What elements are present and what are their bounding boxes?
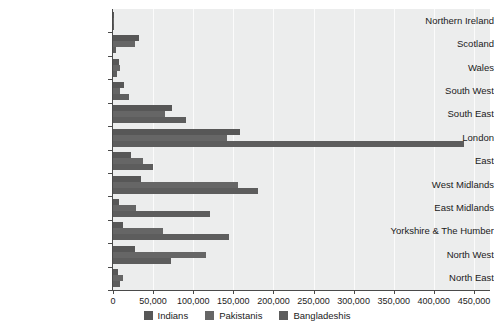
- bar-group: [113, 129, 490, 147]
- bar: [113, 71, 117, 77]
- bar: [113, 24, 114, 30]
- bar-group: [113, 59, 490, 77]
- x-axis-tick-mark: [273, 290, 274, 294]
- bar-group: [113, 82, 490, 100]
- bar: [113, 258, 171, 264]
- y-axis-tick-mark: [108, 196, 112, 197]
- legend-label: Indians: [158, 310, 189, 321]
- legend-swatch-icon: [279, 311, 288, 320]
- y-axis-tick-mark: [108, 220, 112, 221]
- y-axis-tick-mark: [108, 267, 112, 268]
- x-axis-label: 50,000: [139, 296, 167, 306]
- x-axis-label: 250,000: [297, 296, 330, 306]
- bar: [113, 41, 135, 47]
- x-axis-label: 100,000: [177, 296, 210, 306]
- y-axis-tick-mark: [108, 79, 112, 80]
- x-axis-tick-mark: [113, 290, 114, 294]
- x-axis-tick-mark: [314, 290, 315, 294]
- legend-swatch-icon: [205, 311, 214, 320]
- x-axis-label: 0: [110, 296, 115, 306]
- y-axis-tick-mark: [108, 103, 112, 104]
- x-axis-tick-mark: [354, 290, 355, 294]
- x-axis-label: 350,000: [377, 296, 410, 306]
- bar-group: [113, 176, 490, 194]
- legend-swatch-icon: [144, 311, 153, 320]
- x-axis-tick-mark: [233, 290, 234, 294]
- x-axis-tick-mark: [434, 290, 435, 294]
- bar-group: [113, 199, 490, 217]
- x-axis-label: 450,000: [458, 296, 491, 306]
- bar: [113, 211, 210, 217]
- y-axis-tick-mark: [108, 243, 112, 244]
- x-axis-tick-mark: [394, 290, 395, 294]
- y-axis-tick-mark: [108, 56, 112, 57]
- legend-label: Bangladeshis: [293, 310, 350, 321]
- bar-group: [113, 35, 490, 53]
- y-axis-tick-mark: [108, 173, 112, 174]
- x-axis-label: 400,000: [418, 296, 451, 306]
- bar: [113, 281, 120, 287]
- bar-group: [113, 222, 490, 240]
- bar-group: [113, 105, 490, 123]
- bar-group: [113, 152, 490, 170]
- legend-entry[interactable]: Bangladeshis: [279, 310, 350, 321]
- y-axis-tick-mark: [108, 32, 112, 33]
- bar-group: [113, 246, 490, 264]
- bar: [113, 234, 229, 240]
- x-axis-tick-mark: [153, 290, 154, 294]
- bar-group: [113, 269, 490, 287]
- y-axis-tick-mark: [108, 126, 112, 127]
- legend-label: Pakistanis: [219, 310, 262, 321]
- bar-chart: Northern IrelandScotlandWalesSouth WestS…: [0, 0, 494, 331]
- bar: [113, 94, 129, 100]
- bar: [113, 141, 464, 147]
- legend-entry[interactable]: Pakistanis: [205, 310, 262, 321]
- y-axis-tick-mark: [108, 150, 112, 151]
- chart-legend: IndiansPakistanisBangladeshis: [0, 310, 494, 321]
- legend-entry[interactable]: Indians: [144, 310, 189, 321]
- x-axis-tick-mark: [474, 290, 475, 294]
- bar: [113, 164, 153, 170]
- x-axis-tick-mark: [193, 290, 194, 294]
- x-axis-label: 200,000: [257, 296, 290, 306]
- y-axis-tick-mark: [108, 290, 112, 291]
- x-axis-label: 300,000: [337, 296, 370, 306]
- bar-group: [113, 12, 490, 30]
- bar: [113, 188, 258, 194]
- x-axis-label: 150,000: [217, 296, 250, 306]
- bar: [113, 117, 186, 123]
- bar: [113, 47, 116, 53]
